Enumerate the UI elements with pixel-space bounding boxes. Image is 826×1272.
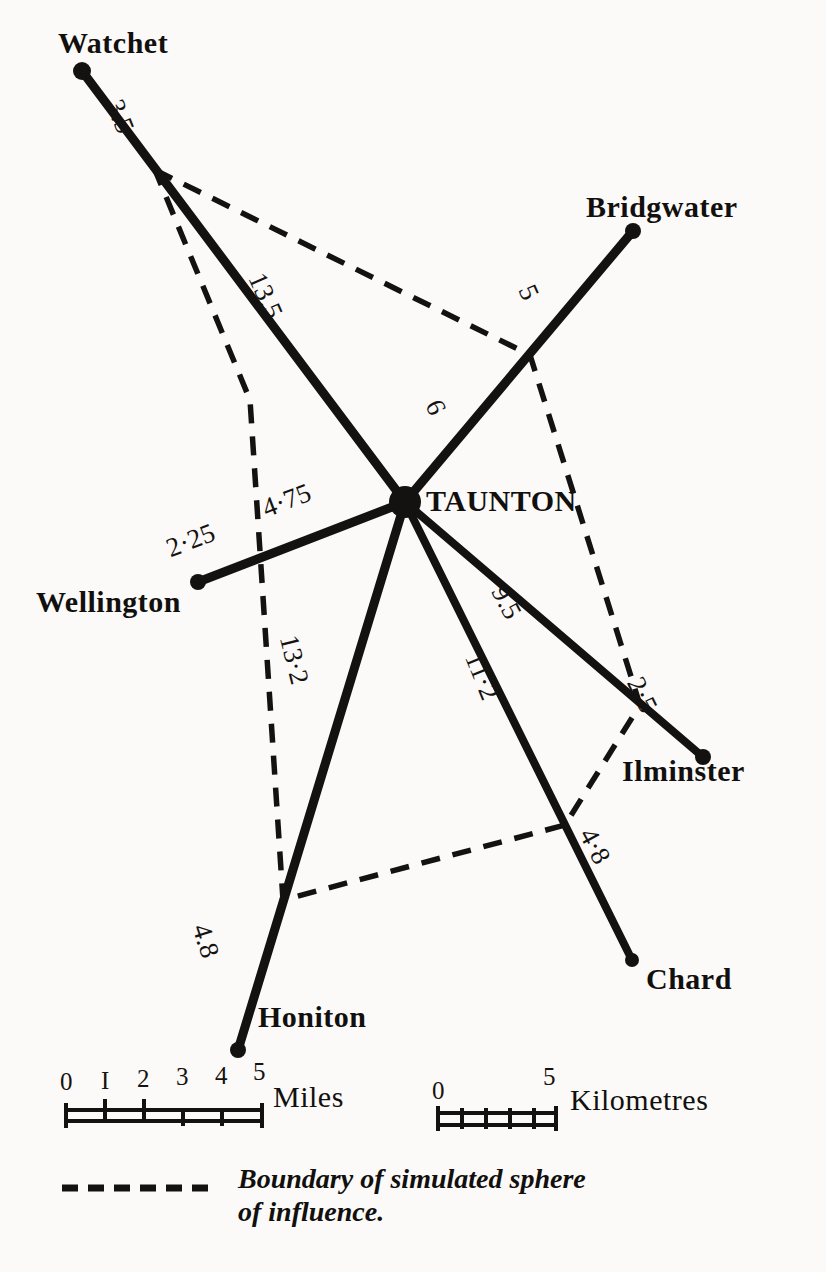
spoke-honiton — [238, 502, 405, 1050]
spoke-wellington — [198, 502, 405, 582]
miles-tick-5: 5 — [253, 1058, 266, 1086]
km-tick-0: 0 — [432, 1077, 445, 1105]
place-label-taunton: TAUNTON — [426, 484, 577, 518]
miles-tick-1: I — [101, 1067, 109, 1095]
node-dot-chard — [625, 953, 639, 967]
place-label-honiton: Honiton — [258, 1000, 367, 1034]
node-dot-taunton — [389, 486, 421, 518]
legend-boundary-text: Boundary of simulated sphere of influenc… — [238, 1162, 586, 1228]
node-dot-wellington — [190, 574, 206, 590]
node-dot-honiton — [230, 1042, 246, 1058]
node-dot-watchet — [73, 62, 91, 80]
node-dot-bridgwater — [625, 223, 641, 239]
spoke-ilminster — [405, 502, 703, 757]
kilometres-unit-label: Kilometres — [570, 1083, 708, 1117]
map-canvas: Watchet Bridgwater TAUNTON Wellington Il… — [0, 0, 826, 1272]
miles-tick-0: 0 — [60, 1068, 73, 1096]
km-tick-5: 5 — [543, 1063, 556, 1091]
place-label-bridgwater: Bridgwater — [586, 190, 738, 224]
miles-scale-bar — [66, 1099, 262, 1128]
place-label-ilminster: Ilminster — [622, 754, 745, 788]
kilometres-scale-bar — [438, 1106, 556, 1131]
place-label-watchet: Watchet — [58, 26, 168, 60]
miles-tick-2: 2 — [137, 1065, 150, 1093]
place-label-wellington: Wellington — [36, 585, 181, 619]
legend-boundary-row: Boundary of simulated sphere of influenc… — [222, 1162, 586, 1228]
miles-tick-4: 4 — [215, 1062, 228, 1090]
spoke-bridgwater — [405, 231, 633, 502]
place-label-chard: Chard — [646, 962, 732, 996]
miles-tick-3: 3 — [176, 1063, 189, 1091]
miles-unit-label: Miles — [273, 1080, 344, 1114]
